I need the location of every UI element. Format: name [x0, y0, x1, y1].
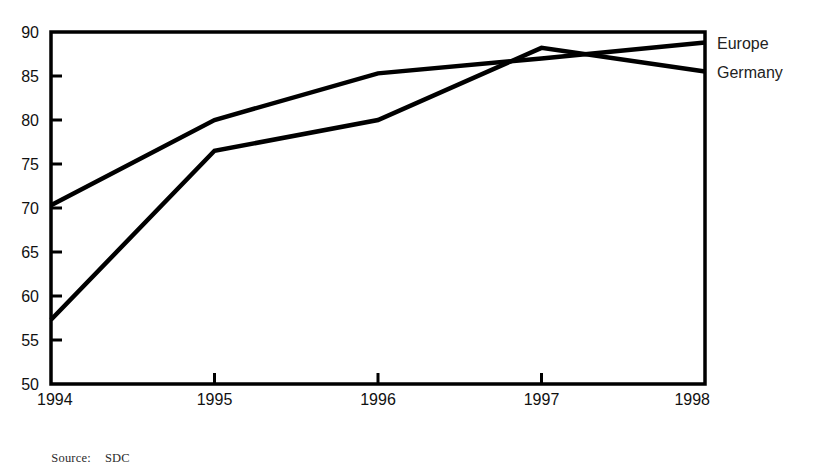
series-lines: [51, 43, 705, 320]
y-axis-tick-label: 60: [21, 288, 39, 305]
y-axis-tick-label: 80: [21, 112, 39, 129]
x-axis-tick-labels: 19941995199619971998: [37, 391, 710, 408]
plot-frame: [51, 32, 705, 384]
y-axis-tick-label: 55: [21, 332, 39, 349]
series-labels: EuropeGermany: [717, 35, 783, 81]
x-axis-tick-label: 1997: [524, 391, 560, 408]
series-line-germany: [51, 48, 705, 320]
y-axis-tick-label: 85: [21, 68, 39, 85]
series-line-europe: [51, 43, 705, 206]
x-axis-tick-label: 1994: [37, 391, 73, 408]
x-axis-tick-label: 1998: [674, 391, 710, 408]
source-note: Source:SDC: [38, 436, 130, 466]
y-axis-tick-label: 75: [21, 156, 39, 173]
source-value: SDC: [105, 451, 130, 465]
y-axis-tick-label: 90: [21, 24, 39, 41]
y-axis-tick-labels: 505560657075808590: [21, 24, 39, 393]
y-axis-tick-label: 70: [21, 200, 39, 217]
y-axis-tick-label: 65: [21, 244, 39, 261]
source-label: Source:: [51, 451, 91, 465]
x-axis-tick-label: 1995: [197, 391, 233, 408]
x-axis-tick-label: 1996: [360, 391, 396, 408]
series-label-germany: Germany: [717, 64, 783, 81]
series-label-europe: Europe: [717, 35, 769, 52]
